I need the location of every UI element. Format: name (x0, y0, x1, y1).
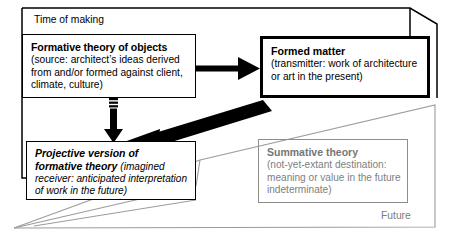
arrow-shaft-stripe-1 (109, 98, 118, 100)
node-body-line-2: or art in the present) (271, 71, 420, 83)
node-body-line-2: receiver: anticipated interpretation (35, 173, 188, 185)
node-body-line-1: (imagined (117, 161, 164, 172)
node-body-line-1: (source: architect’s ideas derived (31, 54, 188, 66)
node-heading: Formative theory of objects (31, 41, 167, 53)
node-heading-line-2: formative theory(imagined (35, 160, 188, 173)
node-heading-line-1: Projective version of (35, 147, 188, 160)
node-body-line-1: (not-yet-extant destination: (267, 159, 400, 171)
node-heading-line-2-bold: formative theory (35, 160, 117, 172)
arrow-shaft-stripe-3 (109, 105, 118, 107)
future-frame-left-riser (196, 160, 200, 186)
future-label: Future (381, 210, 411, 221)
arrow-shaft-vertical (110, 109, 117, 131)
arrow-shaft-stripe-2 (109, 102, 118, 104)
node-body-line-2: meaning or value in the future (267, 172, 400, 184)
node-body-line-3: of work in the future) (35, 185, 188, 197)
node-body-line-1: (transmitter: work of architecture (271, 58, 420, 70)
node-heading: Summative theory (267, 146, 358, 158)
node-body-line-3: climate, culture) (31, 79, 188, 91)
arrow-shaft-horizontal (196, 66, 240, 72)
node-formative-theory-of-objects: Formative theory of objects (source: arc… (22, 34, 196, 98)
diagram-canvas: Time of making Future Formative theory o… (0, 0, 452, 242)
node-heading: Formed matter (271, 45, 345, 57)
arrow-formative-to-formed (196, 57, 260, 80)
node-body-line-3: indeterminate) (267, 184, 400, 196)
arrow-head-right (238, 57, 260, 80)
node-body-line-2: from and/or formed against client, (31, 67, 188, 79)
node-summative-theory: Summative theory (not-yet-extant destina… (258, 139, 408, 203)
time-of-making-label: Time of making (34, 14, 104, 25)
future-frame-inner-diagonal (34, 200, 196, 226)
arrow-formative-to-projective (104, 98, 123, 143)
node-formed-matter: Formed matter (transmitter: work of arch… (260, 36, 430, 98)
node-projective-version-of-formative-theory: Projective version of formative theory(i… (26, 141, 196, 200)
